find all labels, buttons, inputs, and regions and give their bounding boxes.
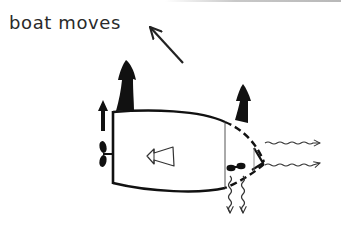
wavy-arrow-right-icon	[265, 142, 320, 144]
hollow-arrow-left-icon	[147, 147, 174, 166]
bow-thruster-propeller-icon	[227, 163, 246, 171]
stern-thrust-arrow-icon	[116, 60, 136, 111]
stern-small-arrow-up-icon	[98, 100, 108, 131]
bow-thrust-arrow-icon	[235, 84, 251, 123]
stern-propeller-icon	[98, 140, 113, 167]
wavy-arrow-down-icon	[242, 176, 245, 213]
wavy-arrow-right-icon	[265, 163, 320, 166]
arrow-up-left-icon	[150, 27, 183, 63]
diagram-drawing	[0, 0, 341, 226]
wavy-arrow-down-icon	[229, 176, 232, 213]
boat-thruster-diagram: boat moves	[0, 0, 341, 226]
